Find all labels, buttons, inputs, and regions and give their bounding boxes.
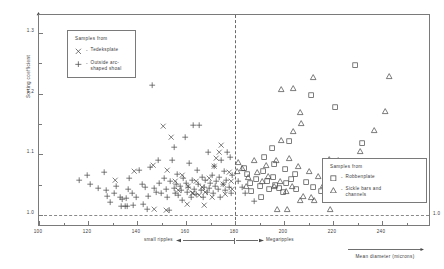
ripple-annotation-rule — [236, 240, 258, 241]
y-axis-tick — [39, 215, 43, 216]
x-axis-minor-tick — [309, 223, 310, 226]
legend-left-box: Samples from-Tedeksplate-Outside arc- sh… — [67, 30, 136, 78]
legend-entry-square: -Robbenplate — [330, 174, 375, 181]
x-axis-tick — [186, 221, 187, 225]
x-axis-tick — [382, 221, 383, 225]
baseline-dashed-line — [39, 215, 429, 216]
ripple-annotation-arrow-icon — [258, 238, 264, 243]
small-ripples-label: small ripples — [144, 237, 173, 242]
ripple-annotation-rule — [183, 240, 234, 241]
x-axis-tick — [88, 221, 89, 225]
legend-entry-label: Outside arc- shaped shoal — [91, 60, 122, 72]
figure-root: Sorting coefficient Mean diameter (micro… — [0, 0, 444, 269]
x-axis-minor-tick — [211, 223, 212, 226]
x-axis-tick-label: 200 — [268, 229, 298, 234]
y-axis-minor-tick — [39, 124, 42, 125]
ripple-annotation-arrow-icon — [176, 238, 182, 243]
triangle-marker-icon — [330, 186, 338, 193]
x-axis-tick-label: 180 — [219, 229, 249, 234]
legend-entry-triangle: -Sickle bars and channels — [330, 186, 381, 198]
legend-entry-label: Robbenplate — [346, 174, 375, 180]
legend-dash: - — [86, 60, 88, 67]
x-axis-minor-tick — [162, 223, 163, 226]
legend-dash: - — [86, 47, 88, 54]
y-axis-tick — [39, 94, 43, 95]
x-axis-tick — [333, 221, 334, 225]
x-axis-minor-tick — [260, 223, 261, 226]
x-axis-tick-label: 100 — [23, 229, 53, 234]
x-axis-tick — [235, 221, 236, 225]
x-axis-title: Mean diameter (microns) — [330, 254, 440, 259]
x-axis-tick — [137, 221, 138, 225]
plus-marker-icon — [75, 60, 83, 67]
y-axis-tick — [39, 33, 43, 34]
x-axis-tick-label: 140 — [121, 229, 151, 234]
baseline-value-label: 1.0 — [433, 211, 444, 216]
x-axis-minor-tick — [358, 223, 359, 226]
y-axis-tick — [39, 154, 43, 155]
legend-right-box: Samples from-Robbenplate-Sickle bars and… — [322, 158, 427, 203]
x-axis-tick-label: 240 — [366, 229, 396, 234]
x-axis-tick-label: 120 — [72, 229, 102, 234]
y-axis-title: Sorting coefficient — [26, 29, 31, 125]
x-axis-minor-tick — [407, 223, 408, 226]
x-axis-minor-tick — [64, 223, 65, 226]
y-axis-tick-label: 1.2 — [14, 89, 34, 97]
x-axis-minor-tick — [113, 223, 114, 226]
legend-entry-label: Tedeksplate — [91, 47, 119, 53]
y-axis-minor-tick — [39, 63, 42, 64]
y-axis-tick-label: 1.0 — [14, 210, 34, 218]
legend-entry-cross-x: -Tedeksplate — [75, 47, 118, 54]
legend-title: Samples from — [330, 164, 363, 169]
ripple-regime-divider — [235, 15, 236, 225]
legend-entry-label: Sickle bars and channels — [346, 186, 382, 198]
x-axis-arrow-icon — [348, 247, 424, 252]
square-marker-icon — [330, 174, 338, 181]
y-axis-minor-tick — [39, 185, 42, 186]
x-axis-tick — [39, 221, 40, 225]
y-axis-tick-label: 1.3 — [14, 28, 34, 36]
megaripples-label: Megaripples — [266, 237, 294, 242]
x-axis-tick — [284, 221, 285, 225]
legend-dash: - — [341, 186, 343, 193]
y-axis-tick-label: 1.1 — [14, 149, 34, 157]
x-axis-tick-label: 220 — [317, 229, 347, 234]
legend-entry-plus: -Outside arc- shaped shoal — [75, 60, 121, 72]
legend-dash: - — [341, 174, 343, 181]
x-axis-tick-label: 160 — [170, 229, 200, 234]
cross-x-marker-icon — [75, 47, 83, 54]
legend-title: Samples from — [75, 36, 108, 41]
divider-annotation-tick — [234, 238, 235, 244]
